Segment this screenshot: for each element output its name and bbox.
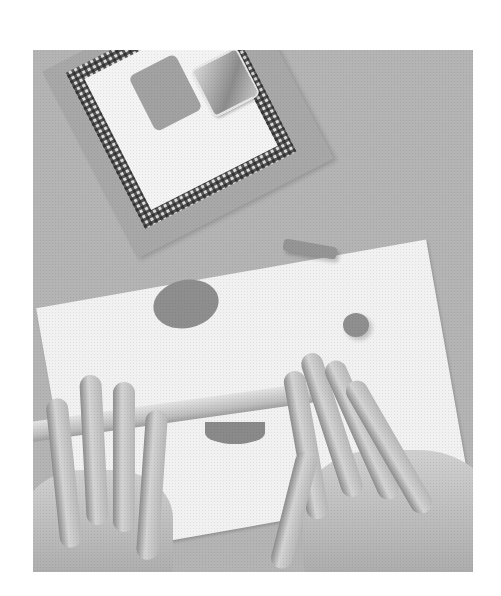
craft-photo [33, 50, 473, 572]
flattened-clay [205, 422, 265, 444]
frame-inner-panel [84, 50, 277, 210]
gingham-frame-card [42, 50, 333, 258]
clay-square-tile [128, 53, 202, 132]
gingham-border [66, 50, 297, 229]
clay-ball [343, 313, 369, 337]
clay-log [282, 238, 337, 259]
